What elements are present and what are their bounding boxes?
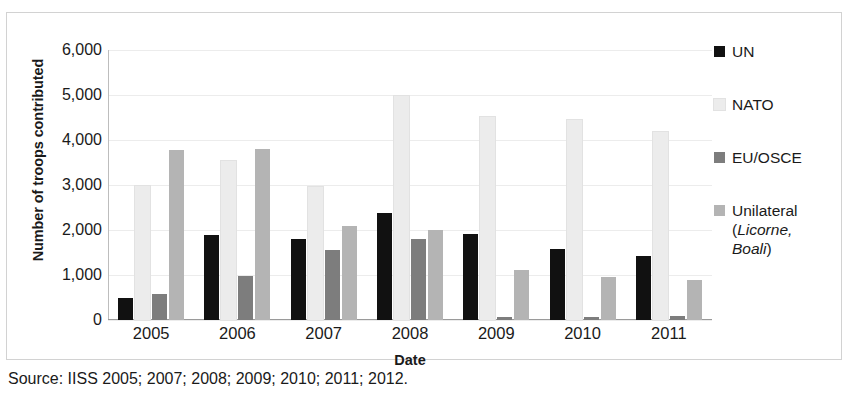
bar [567, 120, 582, 320]
bar [428, 230, 443, 320]
bar [204, 235, 219, 320]
bar [291, 239, 306, 320]
legend-item: Unilateral (Licorne, Boali) [714, 201, 842, 258]
bar [169, 150, 184, 320]
bar [221, 161, 236, 320]
bar [653, 132, 668, 320]
bar [377, 213, 392, 320]
y-tick-label: 3,000 [38, 177, 102, 193]
bar-group [626, 50, 712, 320]
y-tick-label: 2,000 [38, 222, 102, 238]
x-tick-label: 2006 [194, 324, 280, 343]
legend-swatch-icon [714, 46, 725, 57]
bar [118, 298, 133, 320]
bar [670, 316, 685, 320]
bar [584, 317, 599, 320]
bar [514, 270, 529, 320]
gridline [108, 320, 712, 321]
bar [480, 117, 495, 320]
bar [497, 317, 512, 320]
x-tick-label: 2007 [281, 324, 367, 343]
bar-group [539, 50, 625, 320]
x-tick-label: 2010 [539, 324, 625, 343]
y-tick-label: 0 [38, 312, 102, 328]
bar-set [291, 50, 357, 320]
bar [135, 186, 150, 320]
x-tick-label: 2011 [626, 324, 712, 343]
y-tick-label: 1,000 [38, 267, 102, 283]
bar-set [377, 50, 443, 320]
bar [325, 250, 340, 320]
bar-set [118, 50, 184, 320]
bar-set [636, 50, 702, 320]
x-tick-label: 2005 [108, 324, 194, 343]
bar [152, 294, 167, 320]
figure: Number of troops contributed 01,0002,000… [0, 0, 848, 410]
x-axis-tick-labels: 2005200620072008200920102011 [108, 324, 712, 343]
bar [238, 276, 253, 320]
source-note: Source: IISS 2005; 2007; 2008; 2009; 201… [8, 370, 408, 388]
x-axis-title: Date [108, 352, 712, 368]
legend-label: EU/OSCE [732, 148, 802, 167]
bar [255, 149, 270, 320]
bar [636, 256, 651, 320]
x-tick-label: 2008 [367, 324, 453, 343]
legend-item: UN [714, 42, 842, 61]
bar-group [108, 50, 194, 320]
bar-groups [108, 50, 712, 320]
y-tick-label: 5,000 [38, 87, 102, 103]
legend-swatch-icon [714, 205, 725, 216]
bar [550, 249, 565, 320]
bar-set [550, 50, 616, 320]
bar-group [281, 50, 367, 320]
bar [411, 239, 426, 320]
y-axis-tick-labels: 01,0002,0003,0004,0005,0006,000 [38, 50, 102, 320]
legend-label: Unilateral (Licorne, Boali) [732, 201, 797, 258]
bar [394, 96, 409, 320]
bar [601, 277, 616, 320]
y-tick-label: 6,000 [38, 42, 102, 58]
legend-label: NATO [732, 95, 774, 114]
legend-item: EU/OSCE [714, 148, 842, 167]
bar-set [463, 50, 529, 320]
plot-area [108, 50, 712, 320]
y-tick-label: 4,000 [38, 132, 102, 148]
legend-item: NATO [714, 95, 842, 114]
bar-group [453, 50, 539, 320]
bar [342, 226, 357, 320]
bar-group [367, 50, 453, 320]
bar-set [204, 50, 270, 320]
legend-swatch-icon [714, 99, 725, 110]
bar [463, 234, 478, 320]
bar [308, 187, 323, 320]
legend: UNNATOEU/OSCEUnilateral (Licorne, Boali) [714, 42, 842, 292]
legend-swatch-icon [714, 152, 725, 163]
bar [687, 280, 702, 320]
x-tick-label: 2009 [453, 324, 539, 343]
bar-group [194, 50, 280, 320]
legend-label: UN [732, 42, 754, 61]
